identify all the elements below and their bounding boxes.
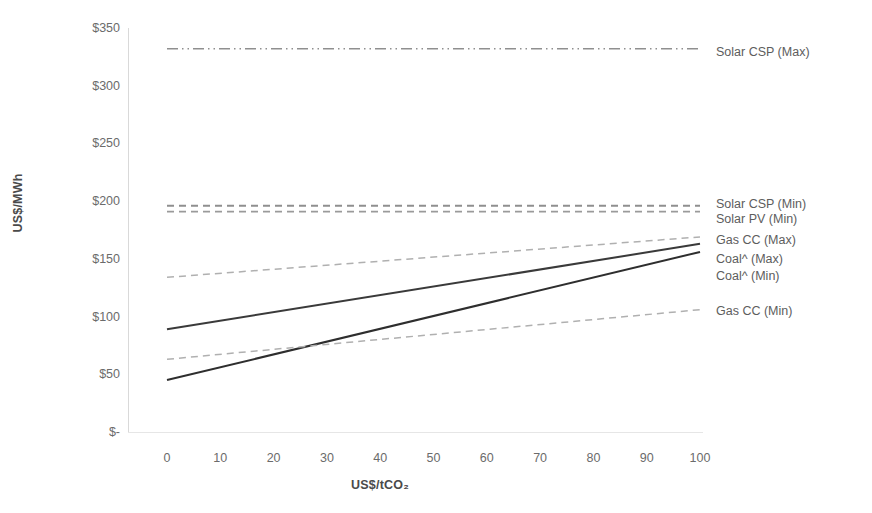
- legend-item: Solar CSP (Max): [716, 46, 810, 59]
- legend-item: Coal^ (Min): [716, 270, 780, 283]
- legend-item: Gas CC (Min): [716, 305, 792, 318]
- legend-item: Solar PV (Min): [716, 213, 797, 226]
- legend-item: Solar CSP (Min): [716, 198, 806, 211]
- legend-item: Coal^ (Max): [716, 253, 783, 266]
- legend: Solar CSP (Max)Solar CSP (Min)Solar PV (…: [716, 0, 872, 513]
- chart-root: US$/MWh $350$300$250$200$150$100$50$- 01…: [0, 0, 872, 513]
- legend-item: Gas CC (Max): [716, 234, 796, 247]
